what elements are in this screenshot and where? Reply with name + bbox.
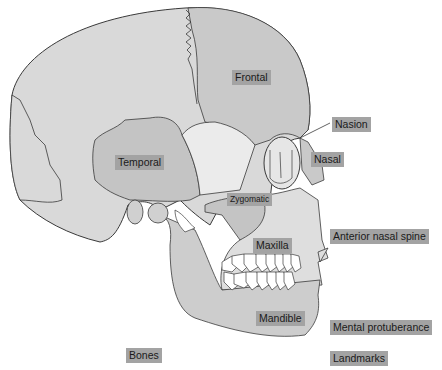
label-zygomatic: Zygomatic xyxy=(227,193,272,206)
label-nasion: Nasion xyxy=(332,117,371,132)
label-mental-protuberance: Mental protuberance xyxy=(330,320,432,335)
label-maxilla: Maxilla xyxy=(253,238,292,253)
label-mandible: Mandible xyxy=(256,311,305,326)
orbit xyxy=(264,137,300,189)
label-temporal: Temporal xyxy=(115,155,164,170)
label-nasal: Nasal xyxy=(311,152,344,167)
mandibular-condyle xyxy=(148,203,168,223)
legend-landmarks: Landmarks xyxy=(330,351,388,366)
skull-diagram xyxy=(0,0,442,370)
label-frontal: Frontal xyxy=(232,70,271,85)
mastoid-process xyxy=(127,200,143,224)
label-anterior-nasal-spine: Anterior nasal spine xyxy=(330,229,429,244)
legend-bones: Bones xyxy=(126,348,162,363)
